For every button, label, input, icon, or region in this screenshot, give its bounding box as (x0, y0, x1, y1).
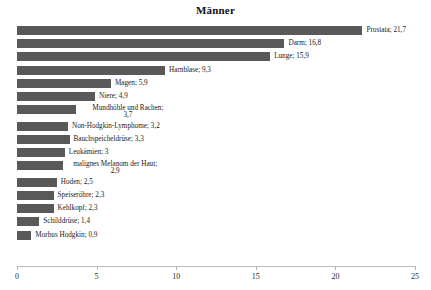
x-axis-tick-label: 0 (6, 272, 28, 281)
x-axis-tick (335, 266, 336, 270)
bar-row: Speiseröhre; 2,3 (17, 191, 415, 200)
bar-chart: Männer Prostata; 21,7Darm; 16,8Lunge; 15… (0, 0, 431, 290)
bar (17, 191, 54, 200)
bar-value-label-line2: 2,9 (67, 168, 163, 175)
bar-value-label: Non-Hodgkin-Lymphome; 3,2 (72, 123, 160, 131)
bar (17, 26, 362, 35)
bar-value-label: malignes Melanom der Haut;2,9 (67, 161, 163, 176)
x-axis-line (17, 266, 415, 267)
x-axis-tick-label: 5 (86, 272, 108, 281)
bar (17, 178, 57, 187)
chart-title: Männer (0, 4, 431, 16)
bar-row: Bauchspeicheldrüse; 3,3 (17, 135, 415, 144)
x-axis-tick-label: 20 (324, 272, 346, 281)
x-axis-tick (415, 266, 416, 270)
bar-row: Kehlkopf; 2,3 (17, 204, 415, 213)
bar-row: Leukämien; 3 (17, 148, 415, 157)
bar (17, 92, 95, 101)
bar-row: malignes Melanom der Haut;2,9 (17, 161, 415, 170)
bar-value-label: Speiseröhre; 2,3 (58, 192, 105, 200)
bar-row: Lunge; 15,9 (17, 52, 415, 61)
bar-row: Magen; 5,9 (17, 79, 415, 88)
bar-row: Hoden; 2,5 (17, 178, 415, 187)
bar-row: Morbus Hodgkin; 0,9 (17, 231, 415, 240)
bar-value-label: Schilddrüse; 1,4 (43, 218, 90, 226)
bar (17, 39, 284, 48)
bar-row: Non-Hodgkin-Lymphome; 3,2 (17, 122, 415, 131)
bar-value-label: Magen; 5,9 (115, 80, 148, 88)
bar-row: Mundhöhle und Rachen;3,7 (17, 105, 415, 114)
bar-value-label: Darm; 16,8 (288, 40, 321, 48)
bar (17, 148, 65, 157)
x-axis-tick-label: 10 (165, 272, 187, 281)
bar-value-label: Leukämien; 3 (69, 149, 109, 157)
bar (17, 231, 31, 240)
bar (17, 161, 63, 170)
x-axis-tick-label: 25 (404, 272, 426, 281)
bar-value-label: Morbus Hodgkin; 0,9 (35, 232, 97, 240)
bar-value-label: Lunge; 15,9 (274, 53, 309, 61)
bar-value-label-line2: 3,7 (80, 112, 176, 119)
bar (17, 204, 54, 213)
x-axis-tick (256, 266, 257, 270)
bar-value-label: Harnblase; 9,3 (169, 67, 211, 75)
bar (17, 135, 70, 144)
bar-value-label: Bauchspeicheldrüse; 3,3 (74, 136, 144, 144)
bar (17, 66, 165, 75)
x-axis-tick (176, 266, 177, 270)
bar-row: Prostata; 21,7 (17, 26, 415, 35)
bar-value-label: Kehlkopf; 2,3 (58, 205, 98, 213)
plot-area: Prostata; 21,7Darm; 16,8Lunge; 15,9Harnb… (17, 24, 415, 260)
bar-row: Niere; 4,9 (17, 92, 415, 101)
x-axis-tick (97, 266, 98, 270)
bar-row: Darm; 16,8 (17, 39, 415, 48)
x-axis-tick-label: 15 (245, 272, 267, 281)
bar (17, 105, 76, 114)
bar-value-label: Niere; 4,9 (99, 93, 128, 101)
bar-value-label: Prostata; 21,7 (366, 27, 406, 35)
x-axis-tick (17, 266, 18, 270)
bar (17, 122, 68, 131)
bar-value-label: Mundhöhle und Rachen;3,7 (80, 105, 176, 120)
bar (17, 217, 39, 226)
bar-row: Schilddrüse; 1,4 (17, 217, 415, 226)
bar (17, 79, 111, 88)
bar (17, 52, 270, 61)
bar-row: Harnblase; 9,3 (17, 66, 415, 75)
bar-value-label: Hoden; 2,5 (61, 179, 93, 187)
